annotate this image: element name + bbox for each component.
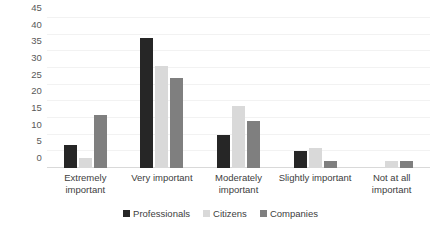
bar[interactable] xyxy=(170,78,183,168)
bar-group xyxy=(277,18,354,168)
bar-group-bars xyxy=(47,18,124,168)
bar[interactable] xyxy=(309,148,322,168)
bar[interactable] xyxy=(94,115,107,168)
bar[interactable] xyxy=(232,106,245,168)
x-axis-labels: Extremely importantVery importantModerat… xyxy=(47,172,430,196)
legend-swatch-icon xyxy=(123,210,130,217)
y-axis-tick-label: 25 xyxy=(31,68,42,79)
legend-label: Professionals xyxy=(133,208,190,219)
bar[interactable] xyxy=(324,161,337,168)
bar-groups xyxy=(47,18,430,168)
x-axis-category-label: Not at all important xyxy=(353,172,430,196)
bar[interactable] xyxy=(140,38,153,168)
bar-group-bars xyxy=(277,18,354,168)
x-axis-category-label: Slightly important xyxy=(277,172,354,196)
x-axis-category-label: Extremely important xyxy=(47,172,124,196)
bar[interactable] xyxy=(385,161,398,168)
legend-swatch-icon xyxy=(260,210,267,217)
legend-swatch-icon xyxy=(203,210,210,217)
bar-group-bars xyxy=(353,18,430,168)
legend-item[interactable]: Citizens xyxy=(203,208,247,219)
bar-group xyxy=(353,18,430,168)
bar[interactable] xyxy=(217,135,230,168)
y-axis-tick-label: 45 xyxy=(31,2,42,13)
bar-group xyxy=(124,18,201,168)
bar[interactable] xyxy=(64,145,77,168)
legend-label: Companies xyxy=(270,208,318,219)
y-axis-tick-label: 30 xyxy=(31,52,42,63)
y-axis-tick-label: 0 xyxy=(37,152,42,163)
bar[interactable] xyxy=(400,161,413,168)
bar-group xyxy=(200,18,277,168)
y-axis-tick-label: 5 xyxy=(37,135,42,146)
legend-item[interactable]: Companies xyxy=(260,208,318,219)
chart-legend: ProfessionalsCitizensCompanies xyxy=(0,208,441,219)
bar-group-bars xyxy=(200,18,277,168)
legend-item[interactable]: Professionals xyxy=(123,208,190,219)
x-axis-category-label: Moderately important xyxy=(200,172,277,196)
y-axis-tick-label: 40 xyxy=(31,18,42,29)
bar-chart: 051015202530354045 Extremely importantVe… xyxy=(0,0,441,232)
y-axis-tick-label: 35 xyxy=(31,35,42,46)
bar-group xyxy=(47,18,124,168)
x-axis-category-label: Very important xyxy=(124,172,201,196)
y-axis-tick-label: 15 xyxy=(31,102,42,113)
legend-label: Citizens xyxy=(213,208,247,219)
bar[interactable] xyxy=(155,66,168,168)
y-axis-tick-label: 10 xyxy=(31,118,42,129)
bar-group-bars xyxy=(124,18,201,168)
y-axis-tick-label: 20 xyxy=(31,85,42,96)
bar[interactable] xyxy=(79,158,92,168)
plot-area: 051015202530354045 xyxy=(47,18,430,168)
bar[interactable] xyxy=(294,151,307,168)
bar[interactable] xyxy=(247,121,260,168)
